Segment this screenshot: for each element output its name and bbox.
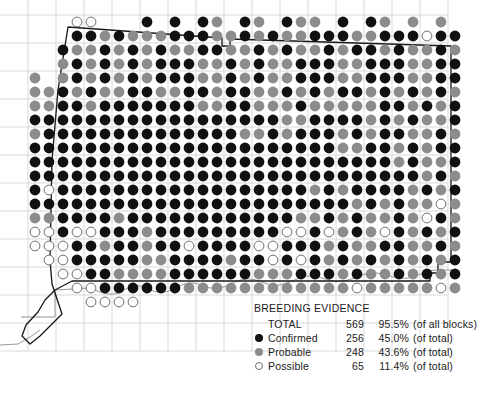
legend-row-confirmed: Confirmed 256 45.0% (of total)	[254, 331, 464, 345]
probable-dot-icon	[254, 345, 268, 359]
legend-of-probable: (of total)	[409, 346, 453, 358]
legend-of-confirmed: (of total)	[409, 332, 453, 344]
legend: BREEDING EVIDENCE TOTAL 569 95.5% (of al…	[254, 302, 464, 373]
total-swatch	[254, 317, 268, 331]
legend-percent-possible: 11.4%	[371, 360, 409, 372]
breeding-evidence-dots	[30, 17, 461, 307]
legend-of-possible: (of total)	[409, 360, 453, 372]
legend-count-confirmed: 256	[330, 332, 371, 344]
legend-label-possible: Possible	[268, 360, 330, 372]
legend-row-total: TOTAL 569 95.5% (of all blocks)	[254, 317, 464, 331]
legend-of-total: (of all blocks)	[409, 318, 477, 330]
legend-row-possible: Possible 65 11.4% (of total)	[254, 359, 464, 373]
legend-title: BREEDING EVIDENCE	[254, 302, 464, 314]
possible-dot-icon	[254, 359, 268, 373]
legend-percent-confirmed: 45.0%	[371, 332, 409, 344]
legend-count-possible: 65	[330, 360, 371, 372]
legend-percent-total: 95.5%	[371, 318, 409, 330]
legend-count-total: 569	[330, 318, 371, 330]
legend-label-confirmed: Confirmed	[268, 332, 330, 344]
legend-label-probable: Probable	[268, 346, 330, 358]
legend-percent-probable: 43.6%	[371, 346, 409, 358]
legend-count-probable: 248	[330, 346, 371, 358]
legend-label-total: TOTAL	[268, 318, 330, 330]
confirmed-dot-icon	[254, 331, 268, 345]
legend-row-probable: Probable 248 43.6% (of total)	[254, 345, 464, 359]
